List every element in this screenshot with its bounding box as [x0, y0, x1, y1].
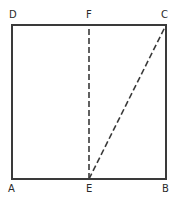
label-E: E	[86, 184, 92, 194]
dashed-line-EC	[89, 25, 166, 179]
geometry-diagram: D F C A E B	[0, 0, 178, 199]
label-A: A	[8, 184, 15, 194]
label-F: F	[86, 10, 92, 20]
label-C: C	[161, 10, 168, 20]
label-B: B	[162, 184, 169, 194]
label-D: D	[9, 10, 17, 20]
diagram-canvas	[0, 0, 178, 199]
